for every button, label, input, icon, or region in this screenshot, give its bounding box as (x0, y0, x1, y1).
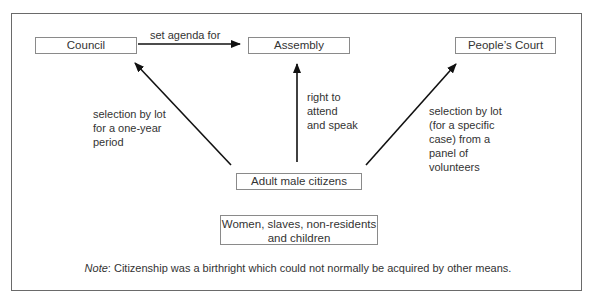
excluded-line-1: Women, slaves, non-residents (221, 217, 377, 231)
label-line: attend (307, 104, 358, 118)
edge-label-court-selection: selection by lot (for a specific case) f… (429, 104, 502, 174)
edge-label-set-agenda: set agenda for (150, 28, 220, 42)
excluded-line-2: and children (221, 231, 377, 245)
label-line: (for a specific (429, 118, 502, 132)
label-line: volunteers (429, 160, 502, 174)
label-line: for a one-year (93, 121, 166, 135)
label-line: case) from a (429, 132, 502, 146)
note-label: Note (85, 262, 108, 274)
node-peoples-court: People’s Court (455, 37, 556, 54)
label-line: and speak (307, 118, 358, 132)
node-assembly: Assembly (248, 37, 350, 54)
node-excluded-groups: Women, slaves, non-residents and childre… (220, 215, 378, 245)
note-text: : Citizenship was a birthright which cou… (108, 262, 512, 274)
label-line: period (93, 135, 166, 149)
node-adult-male-citizens: Adult male citizens (236, 173, 362, 190)
label-line: selection by lot (93, 107, 166, 121)
edge-label-council-selection: selection by lot for a one-year period (93, 107, 166, 149)
edge-label-assembly-right: right to attend and speak (307, 90, 358, 132)
footnote: Note: Citizenship was a birthright which… (0, 262, 596, 274)
node-council: Council (35, 37, 137, 54)
label-line: panel of (429, 146, 502, 160)
label-line: right to (307, 90, 358, 104)
label-line: selection by lot (429, 104, 502, 118)
